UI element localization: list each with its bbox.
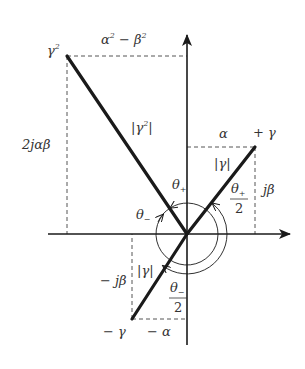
minus-alpha-label: − α — [147, 324, 171, 339]
j-beta-label: jβ — [260, 182, 275, 197]
svg-text:2: 2 — [174, 300, 182, 315]
abs-gamma-upper-label: |γ| — [214, 156, 231, 171]
theta-plus-label: θ+ — [172, 177, 187, 194]
plus-gamma-label: + γ — [253, 125, 276, 140]
minus-gamma-label: − γ — [103, 324, 126, 339]
theta-minus-label: θ− — [136, 207, 151, 224]
complex-plane-diagram: γ2 α2 − β2 2jαβ |γ2| α + γ |γ| jβ θ+ θ− … — [0, 0, 305, 369]
theta-plus-half-label: θ+ 2 — [230, 181, 248, 216]
svg-text:θ−: θ− — [170, 280, 185, 297]
svg-text:θ+: θ+ — [231, 181, 246, 198]
minus-j-beta-label: − jβ — [100, 273, 127, 288]
gamma-squared-vector — [67, 56, 187, 234]
abs-gamma-squared-label: |γ2| — [131, 119, 153, 135]
alpha-label: α — [219, 126, 228, 141]
two-j-alpha-beta-label: 2jαβ — [21, 137, 51, 152]
alpha2-minus-beta2-label: α2 − β2 — [101, 31, 147, 47]
svg-text:2: 2 — [235, 201, 243, 216]
gamma-squared-label: γ2 — [47, 42, 60, 58]
theta-plus-arc — [170, 203, 207, 210]
abs-gamma-lower-label: |γ| — [137, 263, 154, 278]
theta-minus-half-label: θ− 2 — [169, 280, 187, 315]
theta-minus-arc-tip — [158, 214, 164, 225]
